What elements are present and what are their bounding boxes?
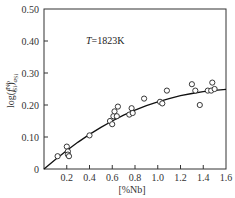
y-tick-label: 0 [34,164,39,175]
plot-border [44,9,226,169]
x-axis-label: [%Nb] [118,184,145,195]
data-point-marker [197,102,202,107]
x-tick-label: 1.0 [152,172,165,183]
data-point-marker [189,82,194,87]
data-point-marker [212,86,217,91]
data-point-marker [193,88,198,93]
data-points [55,80,217,159]
plot-frame [44,9,226,169]
x-tick-label: 0.8 [129,172,142,183]
data-point-marker [115,104,120,109]
x-tick-label: 0.4 [83,172,96,183]
data-point-marker [160,101,165,106]
x-tick-label: 0.6 [106,172,119,183]
data-point-marker [210,80,215,85]
data-point-marker [110,122,115,127]
y-axis-label: log(fNbSi)aSi [4,74,19,108]
x-tick-label: 0.2 [61,172,74,183]
y-tick-label: 0.30 [22,68,40,79]
y-tick-label: 0.50 [22,4,40,15]
svg-text:log(fNbSi)aSi: log(fNbSi)aSi [4,74,19,108]
y-tick-label: 0.40 [22,36,40,47]
data-point-marker [55,154,60,159]
data-point-marker [87,133,92,138]
x-tick-label: 1.2 [174,172,187,183]
data-point-marker [142,96,147,101]
x-tick-label: 1.4 [197,172,210,183]
x-tick-label: 1.6 [220,172,233,183]
y-tick-label: 0.20 [22,100,40,111]
data-point-marker [130,110,135,115]
temperature-annotation: T=1823K [86,35,125,46]
scatter-chart: 00.100.200.300.400.50 0.20.40.60.81.01.2… [0,0,235,198]
data-point-marker [66,154,71,159]
x-axis-ticks: 0.20.40.60.81.01.21.41.6 [61,165,233,183]
data-point-marker [64,144,69,149]
data-point-marker [114,114,119,119]
y-tick-label: 0.10 [22,132,40,143]
data-point-marker [164,88,169,93]
data-point-marker [129,106,134,111]
